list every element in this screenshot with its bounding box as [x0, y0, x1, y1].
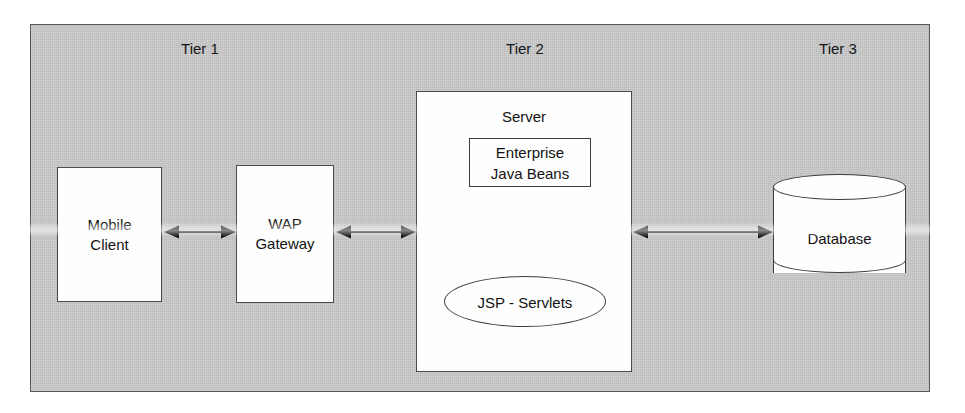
mobile-client-label: Mobile Client: [58, 215, 161, 255]
server-node[interactable]: Server Enterprise Java Beans JSP - Servl…: [416, 91, 632, 372]
tier-2-label: Tier 2: [455, 40, 595, 57]
wap-gateway-label: WAP Gateway: [237, 214, 333, 254]
database-label: Database: [773, 230, 906, 247]
database-cylinder-top: [773, 174, 906, 200]
tier-1-label: Tier 1: [130, 40, 270, 57]
tier-3-label: Tier 3: [768, 40, 908, 57]
diagram-canvas: Tier 1 Tier 2 Tier 3 Mobile Client WAP G…: [0, 0, 965, 413]
enterprise-java-beans-node[interactable]: Enterprise Java Beans: [469, 138, 591, 187]
wap-gateway-node[interactable]: WAP Gateway: [236, 165, 334, 303]
jsp-servlets-node[interactable]: JSP - Servlets: [444, 276, 606, 327]
connector-wap-gateway-to-server: [336, 223, 416, 241]
server-title-label: Server: [417, 108, 631, 125]
enterprise-java-beans-label: Enterprise Java Beans: [466, 142, 594, 184]
database-node[interactable]: Database: [773, 174, 906, 285]
jsp-servlets-label: JSP - Servlets: [445, 293, 605, 310]
mobile-client-node[interactable]: Mobile Client: [57, 167, 162, 302]
connector-server-to-database: [633, 223, 773, 241]
connector-mobile-client-to-wap-gateway: [164, 223, 236, 241]
